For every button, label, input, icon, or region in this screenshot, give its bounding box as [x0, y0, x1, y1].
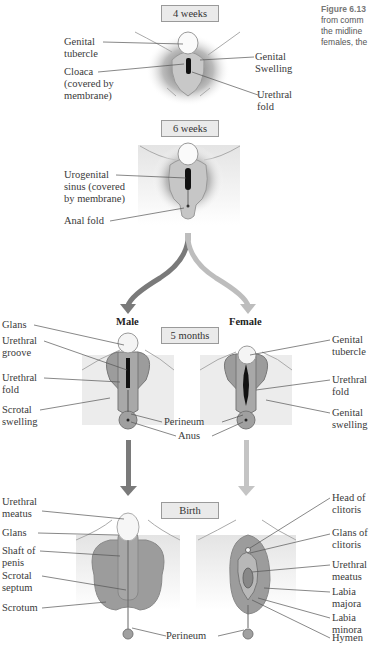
- stage-label-birth: Birth: [161, 502, 219, 519]
- stage-label-4-weeks: 4 weeks: [161, 5, 219, 22]
- label-urethral-meatus-male: Urethral meatus: [2, 496, 37, 520]
- figure-caption: Figure 6.13from commthe midlinefemales, …: [321, 4, 367, 48]
- label-urethral-fold-4wk: Urethral fold: [257, 89, 292, 113]
- label-urethral-fold-female-5mo: Urethral fold: [332, 374, 367, 398]
- label-genital-swelling-female-5mo: Genital swelling: [332, 407, 368, 431]
- label-urogenital-sinus: Urogenital sinus (covered by membrane): [64, 169, 125, 205]
- branch-arrows: [128, 233, 248, 306]
- label-urethral-fold-male-5mo: Urethral fold: [2, 372, 37, 396]
- label-glans-of-clitoris: Glans of clitoris: [332, 527, 368, 551]
- label-perineum-birth: Perineum: [166, 630, 206, 642]
- label-scrotum: Scrotum: [2, 602, 38, 614]
- caption-line: the midline: [321, 26, 362, 36]
- stage-5-months-female-drawing: [200, 346, 292, 429]
- caption-line: females, the: [321, 37, 367, 47]
- embryology-illustration: [0, 0, 371, 646]
- female-label: Female: [229, 316, 262, 327]
- label-scrotal-swelling: Scrotal swelling: [2, 404, 38, 428]
- stage-birth-male-drawing: [76, 513, 180, 639]
- male-label: Male: [116, 316, 139, 327]
- figure-label: Figure 6.13: [321, 4, 366, 14]
- label-genital-tubercle-female-5mo: Genital tubercle: [332, 334, 366, 358]
- label-anal-fold: Anal fold: [64, 215, 104, 227]
- stage-label-5-months: 5 months: [161, 327, 219, 344]
- label-scrotal-septum: Scrotal septum: [2, 570, 32, 594]
- stage-birth-female-drawing: [196, 520, 296, 639]
- stage-label-6-weeks: 6 weeks: [161, 120, 219, 137]
- stage-6-weeks-drawing: [138, 143, 240, 225]
- label-shaft-of-penis: Shaft of penis: [2, 545, 36, 569]
- label-labia-majora: Labia majora: [332, 586, 361, 610]
- label-genital-swelling-4wk: Genital Swelling: [255, 51, 292, 75]
- label-urethral-meatus-female: Urethral meatus: [332, 559, 367, 583]
- label-glans-birth: Glans: [2, 527, 27, 539]
- label-urethral-groove: Urethral groove: [2, 335, 37, 359]
- label-glans-5mo: Glans: [2, 319, 27, 331]
- label-perineum-5mo: Perineum: [164, 416, 204, 428]
- label-genital-tubercle-4wk: Genital tubercle: [64, 36, 98, 60]
- label-anus: Anus: [178, 430, 200, 442]
- label-cloaca: Cloaca (covered by membrane): [64, 66, 114, 102]
- label-hymen: Hymen: [332, 632, 363, 644]
- caption-line: from comm: [321, 15, 364, 25]
- label-head-of-clitoris: Head of clitoris: [332, 492, 366, 516]
